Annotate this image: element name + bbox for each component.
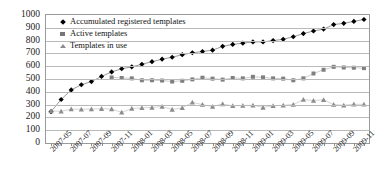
legend-item-inuse: Templates in use: [58, 40, 186, 51]
gridline: [46, 66, 369, 67]
data-point: [291, 34, 296, 39]
data-point: [99, 106, 104, 111]
data-point: [311, 28, 316, 33]
data-point: [220, 44, 225, 49]
data-point: [210, 48, 215, 53]
y-tick-label: 800: [0, 35, 40, 45]
y-tick-label: 500: [0, 73, 40, 83]
gridline: [46, 92, 369, 93]
y-tick-label: 600: [0, 60, 40, 70]
data-point: [230, 42, 235, 47]
gridline: [46, 105, 369, 106]
series-line: [51, 99, 364, 112]
legend-item-active: Active templates: [58, 28, 186, 39]
data-point: [351, 19, 356, 24]
gridline: [46, 53, 369, 54]
series-1: [110, 65, 366, 84]
data-point: [79, 82, 84, 87]
square-marker-icon: [58, 28, 67, 39]
legend-label-inuse: Templates in use: [70, 40, 127, 51]
gridline: [46, 117, 369, 118]
data-point: [311, 72, 315, 76]
y-tick-label: 0: [0, 137, 40, 147]
data-point: [322, 68, 326, 72]
data-point: [361, 17, 366, 22]
y-tick-label: 1000: [0, 9, 40, 19]
legend-label-active: Active templates: [70, 28, 127, 39]
chart-container: 01002003004005006007008009001000 2007-05…: [0, 0, 383, 195]
data-point: [170, 55, 175, 60]
data-point: [301, 97, 306, 102]
data-point: [331, 22, 336, 27]
chart-legend: Accumulated registered templates Active …: [58, 16, 186, 52]
y-tick-label: 700: [0, 47, 40, 57]
data-point: [119, 110, 124, 115]
legend-label-accumulated: Accumulated registered templates: [70, 16, 186, 27]
y-tick-label: 400: [0, 86, 40, 96]
y-tick-label: 900: [0, 22, 40, 32]
data-point: [180, 105, 185, 110]
gridline: [46, 79, 369, 80]
y-tick-label: 100: [0, 124, 40, 134]
data-point: [341, 21, 346, 26]
data-point: [321, 97, 326, 102]
triangle-marker-icon: [58, 40, 67, 51]
y-tick-label: 300: [0, 99, 40, 109]
data-point: [170, 80, 174, 84]
legend-item-accumulated: Accumulated registered templates: [58, 16, 186, 27]
data-point: [159, 57, 164, 62]
series-2: [48, 97, 366, 115]
data-point: [149, 59, 154, 64]
data-point: [301, 31, 306, 36]
y-tick-label: 200: [0, 111, 40, 121]
data-point: [109, 69, 114, 74]
diamond-marker-icon: [58, 16, 67, 27]
